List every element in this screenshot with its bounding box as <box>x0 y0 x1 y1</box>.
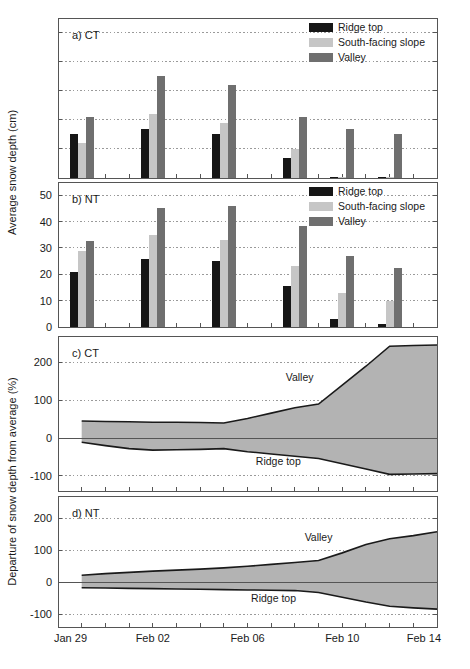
bar-valley <box>86 117 94 178</box>
bar-valley <box>346 256 354 327</box>
y-tick-label: -100 <box>30 608 52 620</box>
legend-swatch-valley <box>309 217 333 226</box>
legend-label: South-facing slope <box>338 36 425 48</box>
bar-ridge_top <box>70 272 78 327</box>
y-axis-title-top: Average snow depth (cm) <box>6 110 18 235</box>
y-tick-label: 0 <box>46 432 52 444</box>
x-tick-label: Feb 14 <box>407 632 441 644</box>
bar-valley <box>157 76 165 178</box>
legend-swatch-valley <box>309 53 333 62</box>
bar-ridge_top <box>330 319 338 327</box>
legend-swatch-ridge_top <box>309 187 333 196</box>
bar-valley <box>228 206 236 327</box>
bar-ridge_top <box>378 177 386 178</box>
panel-label-panel-c: c) CT <box>72 347 99 359</box>
bar-south_facing_slope <box>149 114 157 178</box>
bar-south_facing_slope <box>220 123 228 178</box>
x-tick-label: Jan 29 <box>54 632 87 644</box>
legend-swatch-south_facing_slope <box>309 38 333 47</box>
x-tick-label: Feb 06 <box>230 632 264 644</box>
bar-south_facing_slope <box>291 266 299 327</box>
x-tick-label: Feb 10 <box>325 632 359 644</box>
figure-canvas: Ridge topSouth-facing slopeValleya) CT01… <box>0 0 470 669</box>
bar-ridge_top <box>212 134 220 178</box>
bar-valley <box>86 241 94 327</box>
bar-valley <box>299 226 307 327</box>
bar-ridge_top <box>70 134 78 178</box>
y-tick-label: 0 <box>46 321 52 333</box>
bar-south_facing_slope <box>149 235 157 327</box>
chart-panel-a: Ridge topSouth-facing slopeValleya) CT <box>58 18 437 178</box>
y-tick-label: 200 <box>34 512 52 524</box>
legend-label: Valley <box>338 51 367 63</box>
y-axis-title-bottom: Departure of snow depth from average (%) <box>6 377 18 586</box>
annotation-ridge-top: Ridge top <box>256 455 301 467</box>
y-tick-label: 40 <box>40 216 52 228</box>
chart-panel-c: -1000100200ValleyRidge topc) CT <box>30 336 437 491</box>
bar-south_facing_slope <box>338 177 346 178</box>
panel-label-panel-a: a) CT <box>72 29 100 41</box>
chart-panel-b: 01020304050Ridge topSouth-facing slopeVa… <box>40 182 437 333</box>
bar-valley <box>157 208 165 327</box>
bar-ridge_top <box>283 158 291 178</box>
bar-south_facing_slope <box>386 177 394 178</box>
annotation-valley: Valley <box>305 531 334 543</box>
bar-ridge_top <box>141 129 149 178</box>
panel-label-panel-d: d) NT <box>72 507 100 519</box>
bar-ridge_top <box>378 324 386 327</box>
bar-ridge_top <box>283 286 291 327</box>
bar-valley <box>394 134 402 178</box>
bar-ridge_top <box>141 259 149 327</box>
bar-south_facing_slope <box>78 143 86 178</box>
bar-valley <box>228 85 236 178</box>
y-tick-label: 100 <box>34 394 52 406</box>
panel-label-panel-b: b) NT <box>72 193 100 205</box>
annotation-ridge-top: Ridge top <box>251 592 296 604</box>
y-tick-label: 100 <box>34 544 52 556</box>
chart-panel-d: -1000100200ValleyRidge topd) NT <box>30 496 437 627</box>
bar-south_facing_slope <box>338 293 346 327</box>
legend-label: South-facing slope <box>338 200 425 212</box>
annotation-valley: Valley <box>286 371 315 383</box>
legend-swatch-south_facing_slope <box>309 202 333 211</box>
y-tick-label: 10 <box>40 295 52 307</box>
bar-valley <box>299 117 307 178</box>
bar-ridge_top <box>212 261 220 327</box>
bar-valley <box>394 268 402 327</box>
bar-south_facing_slope <box>78 251 86 327</box>
y-axis-titles: Average snow depth (cm)Departure of snow… <box>6 110 18 586</box>
bar-south_facing_slope <box>220 240 228 327</box>
legend-label: Ridge top <box>338 21 383 33</box>
bar-south_facing_slope <box>291 149 299 178</box>
y-tick-label: 50 <box>40 189 52 201</box>
y-tick-label: 0 <box>46 576 52 588</box>
figure-snow-depth: Ridge topSouth-facing slopeValleya) CT01… <box>0 0 470 669</box>
x-axis-labels: Jan 29Feb 02Feb 06Feb 10Feb 14 <box>54 632 441 644</box>
legend-label: Ridge top <box>338 185 383 197</box>
bar-ridge_top <box>330 177 338 178</box>
x-tick-label: Feb 02 <box>136 632 170 644</box>
bar-south_facing_slope <box>386 301 394 327</box>
legend-swatch-ridge_top <box>309 23 333 32</box>
bar-valley <box>346 129 354 178</box>
legend-label: Valley <box>338 215 367 227</box>
y-tick-label: 200 <box>34 356 52 368</box>
y-tick-label: 20 <box>40 268 52 280</box>
y-tick-label: -100 <box>30 470 52 482</box>
y-tick-label: 30 <box>40 242 52 254</box>
